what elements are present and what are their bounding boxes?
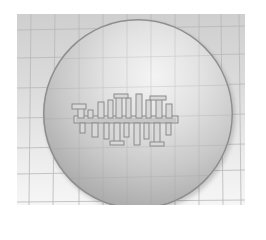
mechanical-structure [70, 86, 182, 152]
